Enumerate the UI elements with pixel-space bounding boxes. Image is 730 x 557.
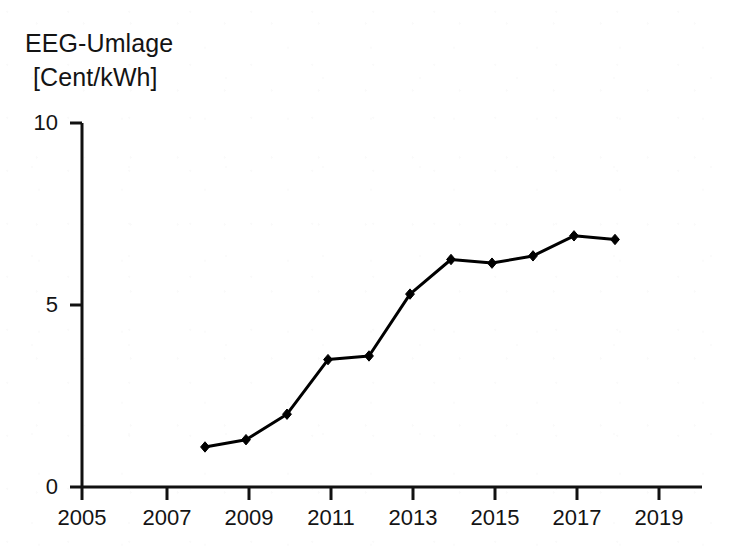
x-tick-label-2017: 2017: [553, 505, 602, 531]
y-axis-ticks: [70, 123, 82, 487]
data-point-2008: [201, 442, 210, 452]
data-point-2018: [611, 234, 620, 244]
plot-area: [0, 0, 730, 557]
x-tick-label-2019: 2019: [635, 505, 684, 531]
y-tick-label-5: 5: [20, 292, 58, 318]
data-point-2015: [488, 258, 497, 268]
x-tick-label-2013: 2013: [389, 505, 438, 531]
y-tick-label-10: 10: [20, 110, 58, 136]
x-tick-label-2011: 2011: [307, 505, 354, 531]
y-tick-label-0: 0: [20, 474, 58, 500]
x-axis-ticks: [82, 487, 659, 500]
x-tick-label-2015: 2015: [471, 505, 520, 531]
x-tick-label-2007: 2007: [143, 505, 192, 531]
data-markers-eeg-umlage: [201, 231, 620, 453]
data-line-eeg-umlage: [205, 236, 615, 447]
data-point-2016: [529, 251, 538, 261]
data-point-2017: [570, 231, 579, 241]
x-tick-label-2005: 2005: [58, 505, 107, 531]
chart-container: EEG-Umlage [Cent/kWh] 10 5 0 2: [0, 0, 730, 557]
x-tick-label-2009: 2009: [225, 505, 274, 531]
